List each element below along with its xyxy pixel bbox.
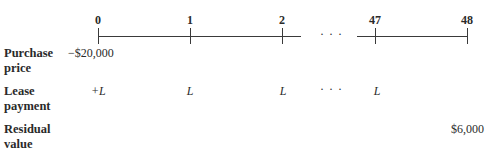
tick-48: [467, 28, 468, 44]
lease-payment-ellipsis: · · ·: [320, 82, 343, 97]
row-label-line2: price: [4, 61, 31, 76]
residual-value-p48: $6,000: [451, 122, 484, 137]
tick-1: [190, 28, 191, 44]
timeline-segment-left: [98, 36, 301, 37]
row-label-line1: Purchase: [4, 46, 53, 61]
period-label-0: 0: [95, 13, 101, 28]
lease-payment-p1: L: [187, 84, 194, 99]
purchase-price-value: −$20,000: [68, 46, 114, 61]
row-label-line2: payment: [4, 99, 51, 114]
lease-payment-p0: +L: [91, 84, 106, 99]
lease-payment-p47: L: [374, 84, 381, 99]
period-label-47: 47: [369, 13, 381, 28]
row-label-line1: Residual: [4, 122, 51, 137]
period-label-1: 1: [187, 13, 193, 28]
tick-2: [282, 28, 283, 44]
tick-0: [98, 28, 99, 44]
row-label-line2: value: [4, 137, 32, 152]
period-label-48: 48: [461, 13, 473, 28]
row-label-line1: Lease: [4, 84, 35, 99]
timeline-segment-right: [357, 36, 467, 37]
period-label-2: 2: [279, 13, 285, 28]
timeline-ellipsis: · · ·: [320, 27, 343, 42]
lease-payment-p2: L: [280, 84, 287, 99]
tick-47: [375, 28, 376, 44]
